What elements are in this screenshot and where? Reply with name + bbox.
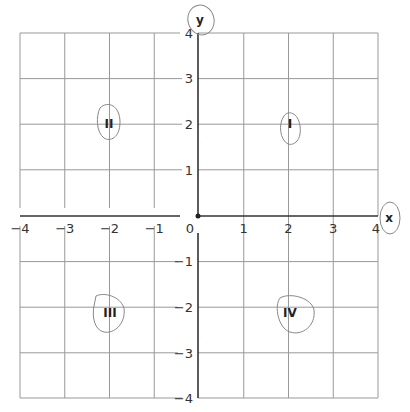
svg-text:−3: −3 [55,221,74,236]
quadrant-label-II: II [97,104,120,139]
quadrant-label-IV: IV [277,296,314,333]
svg-text:1: 1 [185,163,193,178]
svg-text:4: 4 [185,26,193,41]
svg-text:2: 2 [185,117,193,132]
svg-text:I: I [288,117,292,131]
svg-text:III: III [103,306,116,320]
svg-text:−2: −2 [100,221,119,236]
quadrant-label-III: III [93,295,124,333]
svg-text:II: II [105,117,114,131]
svg-text:−4: −4 [10,221,29,236]
svg-text:1: 1 [240,221,248,236]
quadrant-label-I: I [281,113,301,145]
svg-text:2: 2 [284,221,292,236]
svg-text:−4: −4 [174,391,193,406]
svg-text:3: 3 [185,71,193,86]
origin-point [196,214,201,219]
x-tick-labels: −4 −3 −2 −1 0 1 2 3 4 [10,221,380,236]
svg-text:−3: −3 [174,346,193,361]
svg-text:3: 3 [329,221,337,236]
svg-text:0: 0 [186,221,194,236]
svg-text:−1: −1 [174,254,193,269]
svg-text:x: x [385,211,393,225]
svg-text:y: y [196,13,204,27]
svg-text:−1: −1 [145,221,164,236]
coordinate-plane: −4 −3 −2 −1 0 1 2 3 4 4 3 2 1 −1 −2 −3 −… [0,0,410,412]
svg-text:−2: −2 [174,300,193,315]
svg-text:IV: IV [283,306,297,320]
svg-text:4: 4 [372,221,380,236]
x-axis-label: x [380,202,400,234]
